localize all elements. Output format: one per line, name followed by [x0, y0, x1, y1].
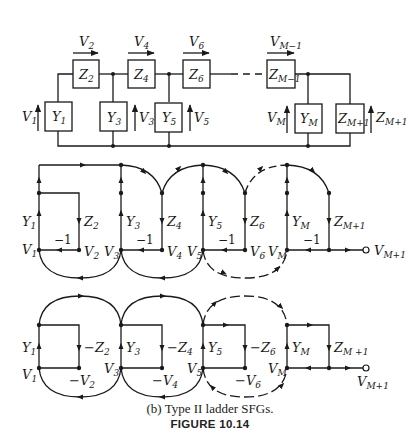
svg-text:YM: YM	[292, 214, 311, 231]
svg-text:V6: V6	[250, 244, 265, 261]
svg-text:Y1: Y1	[22, 214, 36, 231]
svg-text:−1: −1	[54, 233, 72, 247]
svg-text:V1: V1	[22, 109, 37, 126]
figure-title: FIGURE 10.14	[0, 418, 420, 430]
sfg-upper-output-node	[363, 247, 369, 253]
svg-text:V1: V1	[22, 242, 37, 259]
svg-text:Y5: Y5	[208, 340, 223, 357]
svg-text:−1: −1	[303, 233, 321, 247]
svg-text:Y1: Y1	[22, 340, 36, 357]
svg-text:Y5: Y5	[208, 214, 223, 231]
figure-subcaption: (b) Type II ladder SFGs.	[0, 401, 420, 417]
svg-text:Y3: Y3	[126, 214, 141, 231]
svg-text:Z4: Z4	[166, 214, 182, 231]
svg-text:ZM +1: ZM +1	[333, 340, 368, 357]
svg-text:VM−1: VM−1	[270, 34, 302, 51]
svg-text:V3: V3	[104, 244, 119, 261]
sfg-lower-labels: Y1 −Z2 Y3 −Z4 Y5 −Z6 YM ZM +1 V1 −V2 V3 …	[22, 340, 389, 391]
svg-text:V1: V1	[22, 367, 37, 384]
svg-text:V3: V3	[139, 110, 154, 127]
svg-text:V5: V5	[187, 361, 202, 378]
svg-text:V4: V4	[167, 244, 182, 261]
svg-text:Z2: Z2	[83, 214, 99, 231]
svg-text:Y3: Y3	[126, 340, 141, 357]
svg-text:VM: VM	[268, 244, 287, 261]
svg-text:Z6: Z6	[249, 214, 265, 231]
svg-text:ZM+1: ZM+1	[333, 214, 366, 231]
sfg-lower-output-node	[363, 365, 369, 371]
svg-text:ZM+1: ZM+1	[375, 110, 408, 127]
svg-text:−V4: −V4	[152, 373, 178, 390]
svg-text:V4: V4	[134, 34, 149, 51]
svg-text:−Z6: −Z6	[250, 340, 276, 357]
svg-text:V5: V5	[187, 244, 202, 261]
svg-text:VM+1: VM+1	[357, 374, 389, 391]
svg-text:VM+1: VM+1	[374, 243, 406, 260]
svg-text:V2: V2	[79, 34, 94, 51]
svg-text:−1: −1	[218, 233, 236, 247]
ladder-sfg-figure: Z2 Z4 Z6 ZM−1 Y1 Y3 Y5 YM ZM+1 V2 V4 V6 …	[0, 0, 420, 437]
svg-text:V2: V2	[84, 244, 99, 261]
svg-text:V6: V6	[189, 34, 204, 51]
svg-text:−Z4: −Z4	[167, 340, 193, 357]
svg-text:V3: V3	[104, 361, 119, 378]
svg-text:−Z2: −Z2	[84, 340, 110, 357]
svg-text:VM: VM	[268, 361, 287, 378]
svg-text:VM: VM	[267, 110, 286, 127]
svg-text:V5: V5	[194, 110, 209, 127]
svg-text:−1: −1	[136, 233, 154, 247]
svg-text:YM: YM	[292, 340, 311, 357]
svg-text:−V6: −V6	[235, 373, 261, 390]
svg-text:−V2: −V2	[69, 373, 95, 390]
